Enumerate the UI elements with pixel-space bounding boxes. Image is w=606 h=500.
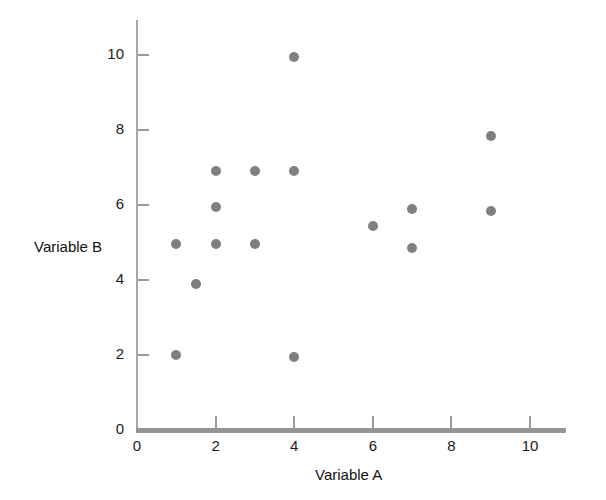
data-point bbox=[250, 166, 260, 176]
y-axis-tick bbox=[138, 354, 149, 356]
y-axis-tick bbox=[138, 54, 149, 56]
x-axis-tick bbox=[450, 416, 452, 428]
x-axis-tick-label: 8 bbox=[431, 437, 471, 454]
data-point bbox=[486, 206, 496, 216]
data-point bbox=[486, 131, 496, 141]
x-axis-tick-label: 4 bbox=[274, 437, 314, 454]
y-axis-tick-label: 6 bbox=[82, 195, 124, 212]
data-point bbox=[289, 352, 299, 362]
y-axis-line bbox=[136, 20, 138, 432]
y-axis-tick-label: 8 bbox=[82, 120, 124, 137]
data-point bbox=[289, 52, 299, 62]
x-axis-tick-label: 2 bbox=[196, 437, 236, 454]
data-point bbox=[368, 221, 378, 231]
scatter-plot-figure: 02468100246810 Variable B Variable A bbox=[0, 0, 606, 500]
data-point bbox=[211, 166, 221, 176]
data-point bbox=[407, 204, 417, 214]
x-axis-line bbox=[136, 428, 566, 433]
data-point bbox=[289, 166, 299, 176]
data-point bbox=[211, 239, 221, 249]
y-axis-tick-label: 2 bbox=[82, 345, 124, 362]
x-axis-tick-label: 0 bbox=[117, 437, 157, 454]
x-axis-tick-label: 10 bbox=[510, 437, 550, 454]
y-axis-tick-label: 10 bbox=[82, 45, 124, 62]
x-axis-tick bbox=[293, 416, 295, 428]
data-point bbox=[171, 350, 181, 360]
data-point bbox=[407, 243, 417, 253]
x-axis-tick bbox=[529, 416, 531, 428]
data-point bbox=[171, 239, 181, 249]
y-axis-tick-label: 0 bbox=[82, 420, 124, 437]
x-axis-tick bbox=[215, 416, 217, 428]
data-point bbox=[191, 279, 201, 289]
y-axis-tick bbox=[138, 204, 149, 206]
y-axis-tick bbox=[138, 279, 149, 281]
data-point bbox=[250, 239, 260, 249]
x-axis-tick bbox=[372, 416, 374, 428]
y-axis-tick-label: 4 bbox=[82, 270, 124, 287]
data-point bbox=[211, 202, 221, 212]
x-axis-tick-label: 6 bbox=[353, 437, 393, 454]
x-axis-title: Variable A bbox=[315, 466, 382, 483]
y-axis-tick bbox=[138, 129, 149, 131]
y-axis-title: Variable B bbox=[34, 238, 102, 255]
